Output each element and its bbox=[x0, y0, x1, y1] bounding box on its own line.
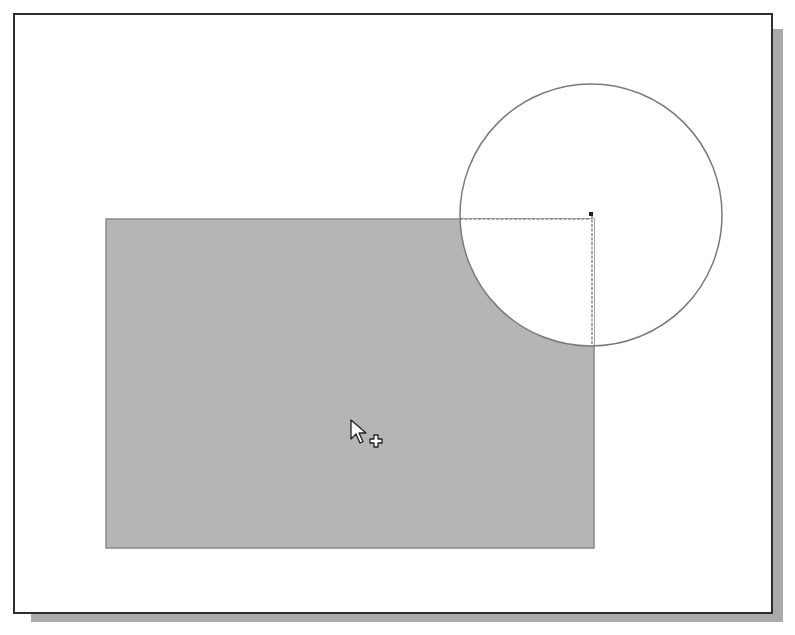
arrow-with-plus-icon bbox=[350, 419, 384, 455]
drawing-canvas[interactable] bbox=[0, 0, 795, 635]
sketch-area[interactable] bbox=[0, 0, 795, 635]
center-point-marker[interactable] bbox=[589, 212, 593, 216]
